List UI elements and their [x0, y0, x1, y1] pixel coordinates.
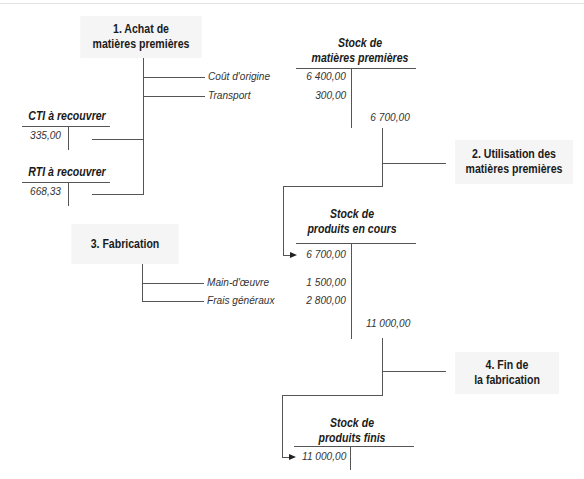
account-stock-mp-credit: 6 700,00: [371, 111, 410, 123]
connector: [382, 371, 446, 372]
connector: [283, 186, 284, 255]
step-3-box: 3. Fabrication: [71, 224, 178, 264]
account-stock-mp-title2: matières premières: [307, 51, 413, 66]
account-stock-mp-debit1: 6 400,00: [307, 70, 346, 82]
label-frais-generaux: Frais généraux: [207, 294, 275, 306]
account-stock-pf-title: Stock de produits finis: [299, 416, 405, 446]
connector: [143, 77, 205, 78]
connector: [382, 128, 383, 186]
step-1-line1: 1. Achat de: [113, 22, 169, 37]
t-account-line: [68, 126, 69, 150]
t-account-line: [296, 243, 416, 244]
step-2-box: 2. Utilisation des matières premières: [455, 140, 573, 184]
label-transport: Transport: [208, 89, 251, 101]
connector: [142, 301, 204, 302]
account-stock-pec-title: Stock de produits en cours: [299, 207, 405, 237]
t-account-line: [351, 68, 352, 128]
account-stock-pec-credit: 11 000,00: [366, 317, 410, 329]
account-stock-mp-title1: Stock de: [307, 36, 413, 51]
top-border: [0, 3, 584, 4]
step-2-line2: matières premières: [466, 162, 563, 177]
account-cti-title: CTI à recouvrer: [27, 109, 106, 124]
connector: [282, 395, 383, 396]
account-stock-pec-title2: produits en cours: [299, 222, 405, 237]
account-stock-pec-debit1: 6 700,00: [307, 248, 346, 260]
account-rti-debit: 668,33: [30, 185, 61, 197]
connector: [283, 186, 383, 187]
t-account-line: [22, 182, 110, 183]
account-cti-debit: 335,00: [30, 129, 61, 141]
t-account-line: [22, 126, 110, 127]
connector: [382, 163, 446, 164]
account-stock-mp-title: Stock de matières premières: [307, 36, 413, 66]
arrow-right-icon: [289, 454, 296, 460]
step-4-line2: la fabrication: [474, 373, 540, 388]
step-2-line1: 2. Utilisation des: [472, 147, 556, 162]
step-1-line2: matières premières: [93, 37, 190, 52]
connector: [143, 96, 205, 97]
connector: [142, 283, 204, 284]
account-stock-pec-debit3: 2 800,00: [307, 294, 346, 306]
account-stock-pf-title1: Stock de: [299, 416, 405, 431]
step-1-box: 1. Achat de matières premières: [80, 16, 201, 58]
label-main-oeuvre: Main-d'œuvre: [207, 276, 269, 288]
connector: [92, 194, 144, 195]
t-account-line: [350, 446, 351, 470]
account-stock-pec-debit2: 1 500,00: [307, 276, 346, 288]
t-account-line: [294, 446, 414, 447]
account-stock-mp-debit2: 300,00: [315, 89, 346, 101]
account-stock-pf-debit1: 11 000,00: [302, 450, 346, 462]
account-stock-pec-title1: Stock de: [299, 207, 405, 222]
t-account-line: [351, 243, 352, 339]
account-stock-pf-title2: produits finis: [299, 431, 405, 446]
step-3-line1: 3. Fabrication: [91, 237, 160, 252]
t-account-line: [68, 182, 69, 206]
step-4-box: 4. Fin de la fabrication: [455, 352, 559, 394]
arrow-right-icon: [290, 252, 297, 258]
connector: [382, 338, 383, 395]
step-4-line1: 4. Fin de: [486, 358, 529, 373]
t-account-line: [296, 68, 416, 69]
account-rti-title: RTI à recouvrer: [27, 165, 106, 180]
label-cout-origine: Coût d'origine: [208, 70, 270, 82]
connector: [282, 395, 283, 457]
connector: [92, 139, 144, 140]
connector: [143, 58, 144, 195]
